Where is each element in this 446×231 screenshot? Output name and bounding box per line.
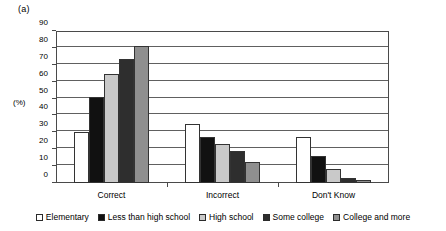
y-axis-tick-label: 60: [39, 70, 48, 78]
x-axis-group-label: Incorrect: [206, 190, 239, 200]
figure-panel-a: (a) (%) 0102030405060708090 CorrectIncor…: [0, 0, 446, 231]
legend-item-label: Some college: [273, 212, 325, 222]
gridline: [57, 130, 388, 131]
legend-item: Some college: [263, 212, 325, 222]
gridline: [57, 164, 388, 165]
legend-swatch-icon: [36, 214, 43, 221]
y-axis-tick-label: 50: [39, 87, 48, 95]
y-axis-tick-label: 10: [39, 154, 48, 162]
gridline: [57, 113, 388, 114]
y-axis-tick-label: 30: [39, 120, 48, 128]
legend-item: High school: [199, 212, 253, 222]
y-axis: 0102030405060708090: [0, 31, 56, 183]
y-axis-tick-label: 40: [39, 103, 48, 111]
y-axis-tick-label: 90: [39, 19, 48, 27]
gridline: [57, 46, 388, 47]
gridline: [57, 80, 388, 81]
y-axis-tick-label: 70: [39, 53, 48, 61]
gridline: [57, 97, 388, 98]
legend-swatch-icon: [263, 214, 270, 221]
gridlines: [57, 32, 388, 182]
legend-item-label: Less than high school: [108, 212, 190, 222]
y-axis-tick-label: 80: [39, 36, 48, 44]
legend-item-label: Elementary: [46, 212, 89, 222]
legend-item-label: High school: [209, 212, 253, 222]
x-axis-tick-mark: [278, 183, 279, 187]
y-axis-tick-label: 20: [39, 137, 48, 145]
gridline: [57, 63, 388, 64]
legend-item: Elementary: [36, 212, 89, 222]
legend-swatch-icon: [98, 214, 105, 221]
x-axis-tick-mark: [167, 183, 168, 187]
x-axis-group-label: Don't Know: [312, 190, 355, 200]
panel-label: (a): [18, 4, 30, 15]
x-axis: CorrectIncorrectDon't Know: [56, 183, 389, 205]
legend-swatch-icon: [199, 214, 206, 221]
y-axis-tick-label: 0: [44, 171, 48, 179]
legend-swatch-icon: [333, 214, 340, 221]
x-axis-group-label: Correct: [98, 190, 126, 200]
gridline: [57, 147, 388, 148]
plot-area: [56, 31, 389, 183]
legend-item-label: College and more: [343, 212, 410, 222]
legend-item: Less than high school: [98, 212, 190, 222]
legend-item: College and more: [333, 212, 410, 222]
chart-legend: ElementaryLess than high schoolHigh scho…: [0, 209, 446, 225]
